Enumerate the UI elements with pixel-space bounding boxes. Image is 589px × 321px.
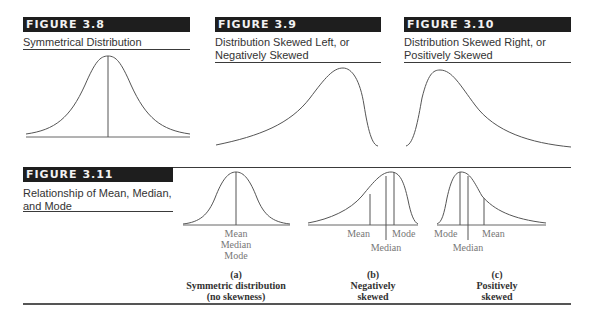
panel-a-label-mode: Mode [206,250,266,261]
panel-c-label-median: Median [448,242,488,253]
panel-a-letter: (a) [176,269,296,280]
panel-c-title-line-2: skewed [457,291,537,302]
panel-a-title-line-2: (no skewness) [176,291,296,302]
panel-b-label-median: Median [366,242,406,253]
panel-b-label-mean: Mean [340,228,370,239]
panel-c-label-mean: Mean [482,228,512,239]
panel-b-title-line-1: Negatively [333,280,413,291]
panel-c-letter: (c) [457,269,537,280]
negative-skew-curve [216,68,378,146]
panel-a-curve [183,172,290,225]
panel-b-title-line-2: skewed [333,291,413,302]
panel-a-label-mean: Mean [206,228,266,239]
positive-skew-curve [406,70,571,147]
panel-a-title-line-1: Symmetric distribution [166,280,306,291]
panel-b-label-mode: Mode [392,228,422,239]
symmetric-curve [26,56,190,137]
panel-b-letter: (b) [333,269,413,280]
panel-a-label-median: Median [206,239,266,250]
panel-c-title-line-1: Positively [457,280,537,291]
panel-c-label-mode: Mode [434,228,464,239]
